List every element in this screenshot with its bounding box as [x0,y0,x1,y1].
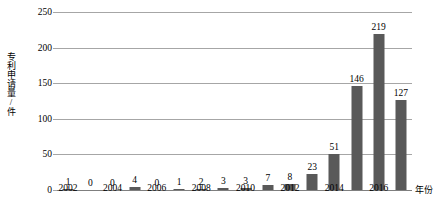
x-axis-tick-label: 2002 [59,183,78,193]
bar-slot: 0 [146,12,168,190]
bar-slot: 127 [390,12,412,190]
bar-slot: 8 [279,12,301,190]
y-axis-title: 专利申请量/件 [2,52,16,116]
bar [395,100,406,190]
bar-value-label: 8 [288,172,293,182]
bar-slot: 3 [212,12,234,190]
bar-chart: 专利申请量/件 050100150200250 1004012337823511… [0,0,438,223]
x-axis-tick-label: 2012 [280,183,299,193]
bar-slot: 3 [235,12,257,190]
bar-slot: 23 [301,12,323,190]
y-axis-tick-label: 150 [38,78,52,88]
bar-slot: 7 [257,12,279,190]
bar-slot: 51 [323,12,345,190]
y-axis-tick-label: 250 [38,7,52,17]
bar-value-label: 219 [372,22,386,32]
bar-value-label: 51 [330,142,340,152]
bar-value-label: 1 [177,177,182,187]
x-axis-tick-label: 2016 [369,183,388,193]
y-axis-tick-mark [53,190,57,191]
bar-series: 100401233782351146219127 [57,12,412,190]
x-axis-tick-label: 2010 [236,183,255,193]
bar-value-label: 4 [132,175,137,185]
x-axis-title: 年份 [415,183,433,196]
bar-slot: 1 [57,12,79,190]
bar-slot: 2 [190,12,212,190]
bar-value-label: 0 [88,178,93,188]
bar-slot: 146 [345,12,367,190]
bar [129,187,140,190]
x-axis-tick-label: 2004 [103,183,122,193]
plot-area: 050100150200250 100401233782351146219127 [57,12,412,190]
bar [351,86,362,190]
bar [373,34,384,190]
bar [307,174,318,190]
bar [262,185,273,190]
bar-value-label: 23 [307,162,317,172]
bar-value-label: 3 [221,176,226,186]
x-axis-tick-label: 2008 [192,183,211,193]
x-axis-tick-label: 2014 [325,183,344,193]
bar-slot: 4 [124,12,146,190]
y-axis-tick-label: 0 [47,185,52,195]
bar [174,189,185,191]
bar-slot: 0 [79,12,101,190]
bar-slot: 1 [168,12,190,190]
y-axis-tick-label: 200 [38,43,52,53]
bar-slot: 219 [368,12,390,190]
bar [218,188,229,190]
bar-value-label: 127 [394,88,408,98]
bar-value-label: 146 [349,74,363,84]
bar-slot: 0 [101,12,123,190]
y-axis-tick-label: 50 [43,149,53,159]
y-axis-tick-label: 100 [38,114,52,124]
bar-value-label: 7 [265,173,270,183]
x-axis-tick-label: 2006 [147,183,166,193]
